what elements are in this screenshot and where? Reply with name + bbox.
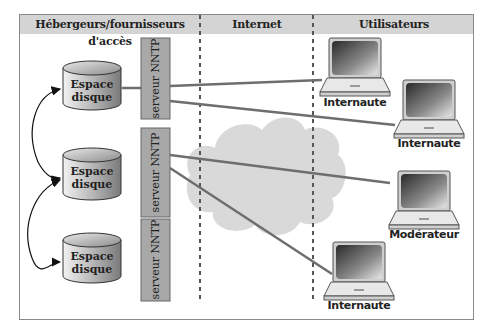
user-label: Internaute [384, 137, 474, 150]
disk-label-line2: disque [62, 263, 122, 276]
disk-label-line2: disque [62, 178, 122, 191]
laptop-icon [389, 171, 459, 229]
replication-arrow-2 [38, 162, 60, 178]
disk-label-line1: Espace [62, 78, 122, 91]
disk-label: Espace disque [62, 78, 122, 104]
user-label: Internaute [314, 299, 404, 312]
disk-label-line2: disque [62, 91, 122, 104]
replication-arrow-4 [32, 258, 60, 269]
server-label: serveur NNTP [149, 219, 162, 300]
server-label: serveur NNTP [149, 38, 162, 119]
laptop-icon [394, 80, 464, 138]
disk-label-line1: Espace [62, 165, 122, 178]
moderator-label: Modérateur [379, 228, 469, 241]
laptop-icon [320, 38, 390, 96]
user-label: Internaute [310, 96, 400, 109]
internet-cloud-icon [187, 118, 346, 236]
replication-arrow-1 [32, 89, 60, 162]
disk-label: Espace disque [62, 165, 122, 191]
server-label: serveur NNTP [149, 128, 162, 217]
laptop-icon [324, 242, 394, 300]
disk-label: Espace disque [62, 250, 122, 276]
replication-arrow-3 [28, 180, 60, 258]
disk-label-line1: Espace [62, 250, 122, 263]
